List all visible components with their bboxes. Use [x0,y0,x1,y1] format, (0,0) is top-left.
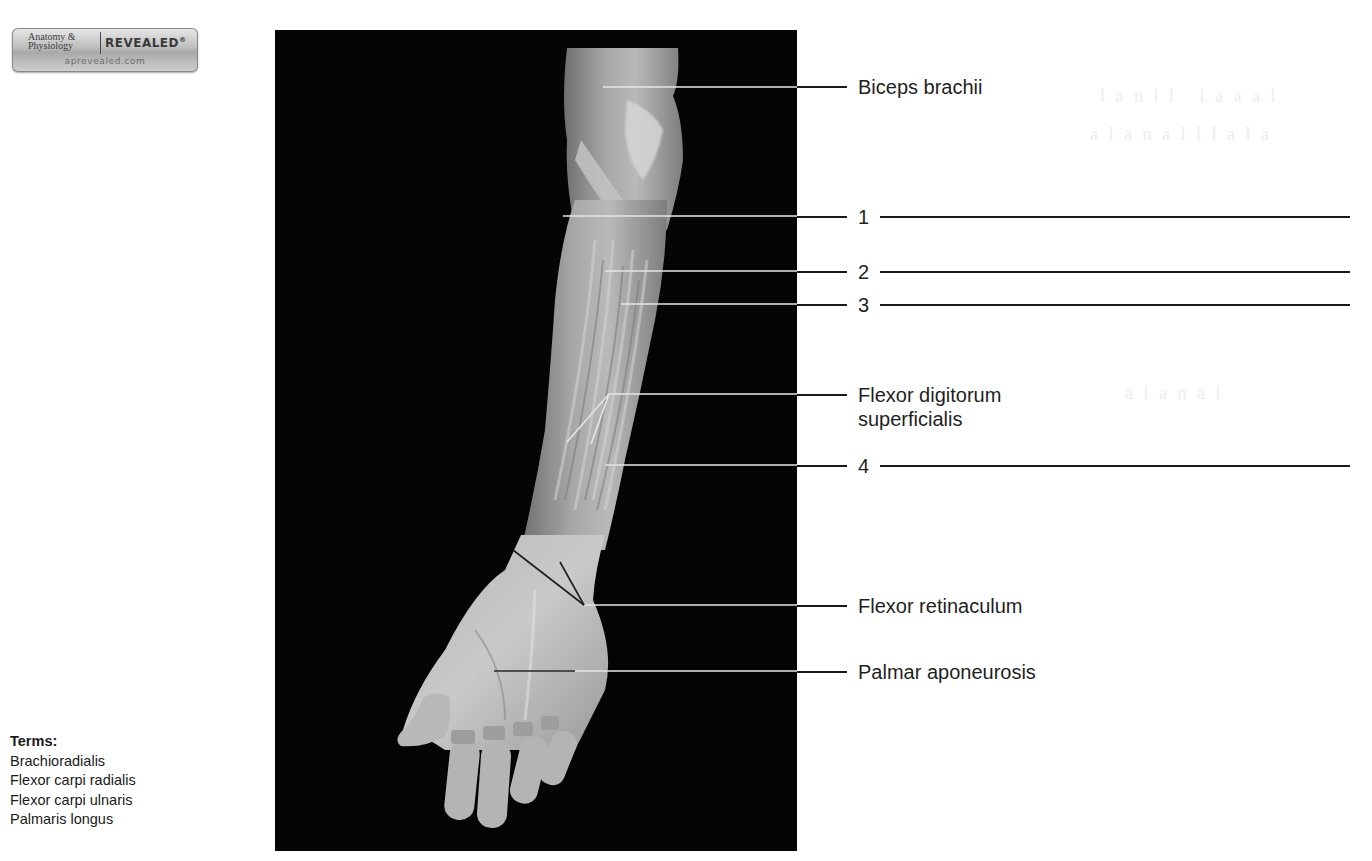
logo-url: aprevealed.com [12,56,198,66]
terms-list: Terms: Brachioradialis Flexor carpi radi… [10,732,136,830]
term-item: Flexor carpi radialis [10,771,136,791]
label-flexor-digitorum-superficialis: Flexor digitorum superficialis [858,383,1001,431]
registered-mark: ® [179,36,187,44]
label-number-3: 3 [858,293,869,317]
forearm-illustration [275,30,797,851]
leader-biceps-brachii [797,86,847,88]
label-flexor-retinaculum: Flexor retinaculum [858,594,1023,618]
logo-divider [100,32,101,54]
bleedthrough-text: a l a n a l l l a l a [1090,124,1272,145]
term-item: Flexor carpi ulnaris [10,791,136,811]
forearm-photograph [275,30,797,851]
leader-flexor-digitorum-superficialis [797,394,847,396]
leader-2 [797,271,847,273]
label-number-2: 2 [858,260,869,284]
answer-blank-4[interactable] [880,465,1350,467]
logo-badge: Anatomy & Physiology REVEALED® apreveale… [12,28,198,72]
label-palmar-aponeurosis: Palmar aponeurosis [858,660,1036,684]
answer-blank-1[interactable] [880,216,1350,218]
leader-3 [797,304,847,306]
logo-revealed-text: REVEALED [105,36,179,50]
term-item: Brachioradialis [10,752,136,772]
answer-blank-3[interactable] [880,304,1350,306]
leader-palmar-aponeurosis [797,671,847,673]
label-fds-line-1: Flexor digitorum [858,383,1001,407]
label-number-4: 4 [858,454,869,478]
leader-1 [797,216,847,218]
label-biceps-brachii: Biceps brachii [858,75,983,99]
logo-line-2: Physiology [28,41,76,50]
term-item: Palmaris longus [10,810,136,830]
leader-flexor-retinaculum [797,605,847,607]
logo-revealed: REVEALED® [105,36,187,50]
bleedthrough-text: a l a n a l [1125,383,1223,404]
label-number-1: 1 [858,205,869,229]
logo-anatomy-physiology: Anatomy & Physiology [28,32,76,50]
bleedthrough-text: l a n l l l a a a l [1100,86,1278,107]
leader-4 [797,465,847,467]
answer-blank-2[interactable] [880,271,1350,273]
label-fds-line-2: superficialis [858,407,1001,431]
terms-title: Terms: [10,732,136,752]
